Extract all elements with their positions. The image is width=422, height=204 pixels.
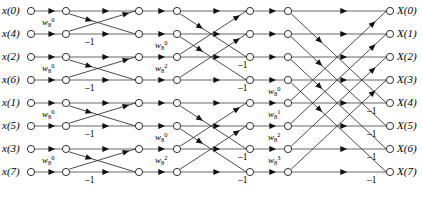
edge-arrowhead [158,123,165,129]
stage1-out-node [135,7,142,14]
minus-one-label: –1 [367,107,377,117]
output-label: X(6) [397,143,417,154]
minus-one-label: –1 [85,176,95,186]
minus-one-label: –1 [85,38,95,48]
edge-arrowhead [233,105,242,114]
stage2-node [173,122,180,129]
edge-arrowhead [340,123,347,129]
twiddle-factor-label: w82 [268,132,281,143]
edge-arrowhead [213,77,220,83]
edge-arrowhead [269,77,276,83]
edge-arrowhead [158,100,165,106]
stage2-node [173,168,180,175]
stage3-node [284,168,291,175]
edge-arrowhead [102,146,109,152]
twiddle-factor-label: w82 [155,63,168,74]
edge-arrowhead [196,46,205,55]
minus-one-label: –1 [238,61,248,71]
edge-arrowhead [48,31,55,37]
stage1-node [62,168,69,175]
edge-arrowhead [340,8,347,14]
edge-arrowhead [233,128,242,137]
stage3-node [284,122,291,129]
edge-arrowhead [48,169,55,175]
edge-arrowhead [85,16,93,24]
edge-arrowhead [340,77,347,83]
edge-arrowhead [233,13,242,22]
edge-arrowhead [269,54,276,60]
stage2-out-node [246,30,253,37]
edge-arrowhead [213,100,220,106]
input-label: x(2) [2,51,20,62]
edge-arrowhead [158,54,165,60]
output-node [386,122,393,129]
edge-arrowhead [102,123,109,129]
flow-edge [69,106,135,126]
edge-arrowhead [158,8,165,14]
output-label: X(4) [397,97,417,108]
output-label: X(7) [397,166,417,177]
minus-one-label: –1 [85,130,95,140]
stage1-out-node [135,168,142,175]
input-node [27,30,34,37]
stage3-node [284,7,291,14]
stage1-out-node [135,53,142,60]
edge-arrowhead [340,146,347,152]
flow-edge [69,152,135,172]
output-node [386,99,393,106]
edge-arrowhead [158,146,165,152]
twiddle-factor-label: w80 [42,17,55,28]
input-label: x(5) [2,120,20,131]
stage3-node [284,76,291,83]
edge-arrowhead [48,123,55,129]
input-label: x(3) [2,143,20,154]
fft-butterfly-diagram: x(0)x(4)x(2)x(6)x(1)x(5)x(3)x(7)X(0)X(1)… [0,0,422,204]
edge-arrowhead [102,8,109,14]
input-label: x(0) [2,5,20,16]
stage2-node [173,99,180,106]
output-label: X(3) [397,74,417,85]
stage2-node [173,145,180,152]
twiddle-factor-label: w83 [268,155,281,166]
input-label: x(4) [2,28,20,39]
edge-arrowhead [102,169,109,175]
input-label: x(6) [2,74,20,85]
stage2-out-node [246,7,253,14]
edge-arrowhead [269,169,276,175]
input-node [27,53,34,60]
stage2-node [173,53,180,60]
input-node [27,168,34,175]
minus-one-label: –1 [238,84,248,94]
minus-one-label: –1 [367,176,377,186]
edge-arrowhead [196,23,205,32]
edge-arrowhead [233,36,242,45]
edge-arrowhead [269,8,276,14]
input-node [27,7,34,14]
edge-arrowhead [48,54,55,60]
stage1-out-node [135,122,142,129]
stage1-out-node [135,30,142,37]
edge-arrowhead [48,8,55,14]
flow-edge [69,14,135,34]
stage1-out-node [135,76,142,83]
output-node [386,53,393,60]
edge-arrowhead [102,100,109,106]
output-node [386,30,393,37]
output-node [386,7,393,14]
edge-arrowhead [85,108,93,116]
minus-one-label: –1 [238,153,248,163]
stage1-out-node [135,99,142,106]
stage3-node [284,53,291,60]
twiddle-factor-label: w82 [155,155,168,166]
stage1-node [62,30,69,37]
stage2-out-node [246,99,253,106]
edge-arrowhead [158,169,165,175]
edge-arrowhead [48,146,55,152]
twiddle-factor-label: w80 [155,132,168,143]
edge-arrowhead [102,31,109,37]
stage1-out-node [135,145,142,152]
output-label: X(5) [397,120,417,131]
input-node [27,76,34,83]
edge-arrowhead [48,77,55,83]
minus-one-label: –1 [367,153,377,163]
